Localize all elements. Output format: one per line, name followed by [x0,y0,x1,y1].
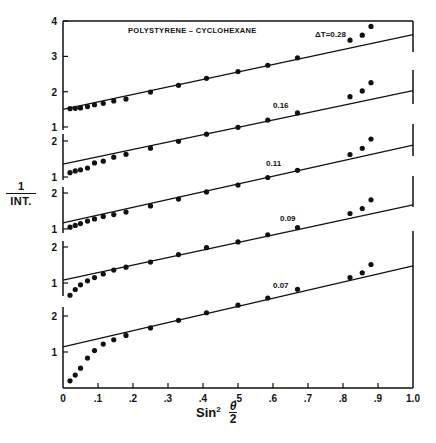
y-tick-label: 2 [51,136,57,147]
y-axis-label-denominator: INT. [6,194,36,207]
data-point [73,106,78,111]
data-point [265,63,270,68]
data-point [204,76,209,81]
data-point [368,136,373,141]
data-point [295,225,300,230]
y-tick-label: 1 [51,224,57,235]
data-point [78,167,83,172]
x-axis-label-fraction: θ 2 [229,400,238,425]
data-point [295,287,300,292]
y-axis-label: 1 INT. [6,180,36,207]
data-point [67,293,72,298]
x-tick-label: .6 [269,393,278,404]
data-point [360,88,365,93]
data-point [73,168,78,173]
data-point [176,139,181,144]
data-point [265,295,270,300]
series-label: 0.07 [273,281,289,290]
y-tick-label: 2 [51,188,57,199]
y-tick-label: 3 [51,51,57,62]
data-point [92,216,97,221]
x-tick-label: .7 [304,393,313,404]
data-point [176,83,181,88]
x-axis-label-exponent: 2 [216,405,220,414]
data-point [176,252,181,257]
x-tick-label: .1 [94,393,103,404]
y-tick-label: 1 [51,172,57,183]
chart-title: POLYSTYRENE – CYCLOHEXANE [128,26,257,35]
data-point [148,203,153,208]
data-point [123,152,128,157]
plot-area: 0.1.2.3.4.5.6.7.8.91.0POLYSTYRENE – CYCL… [0,0,436,443]
series-label: 0.11 [266,159,282,168]
data-point [111,212,116,217]
x-tick-label: 1.0 [406,393,420,404]
y-tick-label: 2 [51,242,57,253]
data-point [360,206,365,211]
data-point [111,267,116,272]
data-point [123,265,128,270]
data-point [92,275,97,280]
y-axis-label-numerator: 1 [6,180,36,194]
data-point [347,94,352,99]
data-point [73,223,78,228]
data-point [347,275,352,280]
y-tick-label: 1 [51,347,57,358]
data-point [204,245,209,250]
x-axis-label: Sin2 θ 2 [196,400,237,425]
data-point [111,98,116,103]
data-point [235,239,240,244]
x-tick-label: .3 [164,393,173,404]
x-axis-label-main: Sin2 [196,405,221,420]
data-point [111,155,116,160]
data-point [92,102,97,107]
data-point [176,197,181,202]
data-point [347,211,352,216]
data-point [123,333,128,338]
data-point [85,165,90,170]
data-point [204,310,209,315]
data-point [265,118,270,123]
data-point [347,152,352,157]
data-point [265,175,270,180]
data-point [67,170,72,175]
data-point [123,97,128,102]
y-tick-label: 1 [51,278,57,289]
data-point [368,262,373,267]
data-point [73,372,78,377]
data-point [85,356,90,361]
data-point [78,221,83,226]
data-point [295,55,300,60]
data-point [78,282,83,287]
data-point [85,104,90,109]
scattering-chart: 0.1.2.3.4.5.6.7.8.91.0POLYSTYRENE – CYCL… [0,0,436,443]
data-point [123,209,128,214]
y-tick-label: 2 [51,311,57,322]
data-point [148,89,153,94]
data-point [101,271,106,276]
data-point [368,80,373,85]
data-point [295,168,300,173]
data-point [101,101,106,106]
series-label: ΔT=0.28 [315,30,346,39]
data-point [368,197,373,202]
data-point [265,232,270,237]
data-point [67,378,72,383]
data-point [101,341,106,346]
data-point [204,132,209,137]
data-point [85,218,90,223]
data-point [368,24,373,29]
data-point [360,270,365,275]
data-point [92,160,97,165]
data-point [360,146,365,151]
data-point [176,318,181,323]
x-tick-label: 0 [60,393,66,404]
data-point [235,303,240,308]
x-axis-label-sin: Sin [196,405,216,420]
x-tick-label: .8 [339,393,348,404]
data-point [67,106,72,111]
data-point [111,337,116,342]
data-point [347,38,352,43]
data-point [73,287,78,292]
data-point [92,348,97,353]
